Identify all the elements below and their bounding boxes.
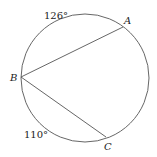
point-label-a: A [123, 15, 131, 26]
circle [21, 14, 149, 142]
point-label-c: C [104, 141, 112, 152]
point-label-b: B [9, 72, 17, 83]
arc-label-ba: 126° [44, 10, 68, 21]
circle-diagram: 126° 110° A B C [0, 0, 157, 157]
chord-ba [21, 27, 123, 77]
chord-bc [21, 77, 106, 137]
arc-label-bc: 110° [24, 129, 48, 140]
